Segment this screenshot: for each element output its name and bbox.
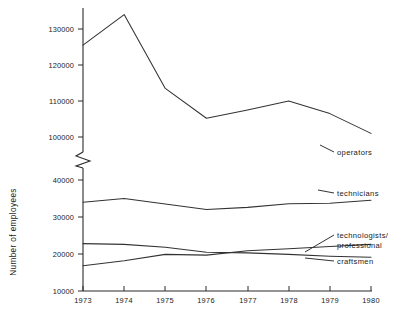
leader-line-technologists <box>305 235 334 252</box>
series-label-operators: operators <box>337 148 372 157</box>
series-line-technologists-professional <box>83 244 371 265</box>
x-tick-label-1977: 1977 <box>239 296 257 305</box>
y-tick-label-10000: 10000 <box>53 287 74 296</box>
series-line-technicians <box>83 199 371 210</box>
y-tick-label-30000: 30000 <box>53 213 74 222</box>
y-axis-break-icon <box>76 152 90 168</box>
y-tick-label-40000: 40000 <box>53 176 74 185</box>
y-tick-label-130000: 130000 <box>48 25 74 34</box>
y-tick-label-110000: 110000 <box>49 97 74 106</box>
x-tick-label-1973: 1973 <box>74 296 92 305</box>
y-axis-title: Number of employees <box>9 188 18 276</box>
x-tick-label-1978: 1978 <box>280 296 298 305</box>
line-chart-employees: 130000 120000 110000 100000 40000 30000 … <box>0 0 402 319</box>
chart-canvas: 130000 120000 110000 100000 40000 30000 … <box>0 0 402 319</box>
series-line-craftsmen <box>83 244 371 258</box>
leader-line-operators <box>320 145 334 152</box>
x-tick-label-1975: 1975 <box>156 296 174 305</box>
series-label-technologists-line1: technologists/ <box>337 231 389 240</box>
x-tick-label-1979: 1979 <box>321 296 339 305</box>
x-tick-label-1980: 1980 <box>362 296 380 305</box>
x-tick-label-1974: 1974 <box>115 296 133 305</box>
x-tick-label-1976: 1976 <box>197 296 215 305</box>
series-label-technicians: technicians <box>337 189 379 198</box>
series-label-technologists-line2: professional <box>337 241 382 250</box>
series-label-craftsmen: craftsmen <box>337 257 374 266</box>
y-tick-label-120000: 120000 <box>48 61 74 70</box>
leader-line-craftsmen <box>305 258 334 261</box>
y-tick-label-100000: 100000 <box>48 133 74 142</box>
y-tick-label-20000: 20000 <box>53 250 74 259</box>
leader-line-technicians <box>318 190 334 193</box>
series-line-operators <box>83 15 371 134</box>
